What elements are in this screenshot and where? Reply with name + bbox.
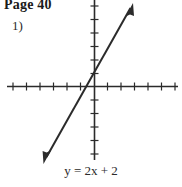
y-axis — [91, 0, 99, 160]
line-segment — [47, 8, 131, 157]
line-arrow-up-right-icon — [126, 3, 135, 17]
x-axis — [7, 83, 178, 91]
line-arrow-down-left-icon — [43, 151, 51, 165]
graph-svg — [0, 0, 182, 168]
equation-label: y = 2x + 2 — [0, 163, 182, 179]
worksheet-page: Page 40 1) — [0, 0, 182, 187]
plotted-line-series — [43, 3, 134, 164]
coordinate-graph — [0, 0, 182, 168]
